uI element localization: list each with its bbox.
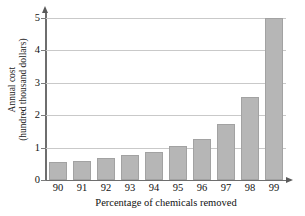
bar bbox=[217, 124, 235, 180]
x-axis-title: Percentage of chemicals removed bbox=[46, 198, 286, 209]
gridline bbox=[46, 83, 286, 84]
y-axis-tick-label: 1 bbox=[24, 143, 40, 154]
bar bbox=[241, 97, 259, 180]
y-axis-tick-mark bbox=[41, 83, 46, 84]
x-axis-tick-label: 98 bbox=[238, 183, 262, 194]
y-axis-tick-label: 2 bbox=[24, 110, 40, 121]
y-axis-tick-mark bbox=[41, 180, 46, 181]
x-axis-tick-labels: 90919293949596979899 bbox=[46, 183, 286, 197]
y-axis-tick-label: 3 bbox=[24, 78, 40, 89]
x-axis-tick-label: 93 bbox=[118, 183, 142, 194]
y-axis-tick-mark bbox=[41, 18, 46, 19]
y-axis-tick-label: 4 bbox=[24, 45, 40, 56]
x-axis-tick-label: 95 bbox=[166, 183, 190, 194]
x-axis-tick-label: 97 bbox=[214, 183, 238, 194]
y-axis-tick-labels: 012345 bbox=[22, 0, 40, 216]
x-axis-tick-label: 91 bbox=[70, 183, 94, 194]
bar bbox=[169, 146, 187, 180]
bar bbox=[193, 139, 211, 180]
bar bbox=[145, 152, 163, 181]
y-axis-tick-mark bbox=[41, 115, 46, 116]
x-axis-tick-label: 90 bbox=[46, 183, 70, 194]
x-axis-tick-label: 96 bbox=[190, 183, 214, 194]
bar-chart: Annual cost (hundred thousand dollars) 0… bbox=[0, 0, 305, 216]
y-axis-tick-mark bbox=[41, 50, 46, 51]
x-axis-tick-label: 94 bbox=[142, 183, 166, 194]
y-axis-tick-mark bbox=[41, 148, 46, 149]
bar bbox=[265, 18, 283, 180]
bar bbox=[73, 161, 91, 180]
bar bbox=[97, 158, 115, 180]
x-axis-tick-label: 92 bbox=[94, 183, 118, 194]
y-axis-arrow-icon bbox=[42, 6, 48, 13]
gridline bbox=[46, 18, 286, 19]
gridline bbox=[46, 50, 286, 51]
x-axis-arrow-icon bbox=[286, 177, 293, 183]
y-axis-tick-label: 5 bbox=[24, 13, 40, 24]
bar bbox=[121, 155, 139, 180]
x-axis-tick-label: 99 bbox=[262, 183, 286, 194]
y-axis-title-line1: Annual cost bbox=[6, 67, 16, 113]
bar bbox=[49, 162, 67, 180]
y-axis-tick-label: 0 bbox=[24, 175, 40, 186]
plot-area bbox=[46, 18, 286, 180]
